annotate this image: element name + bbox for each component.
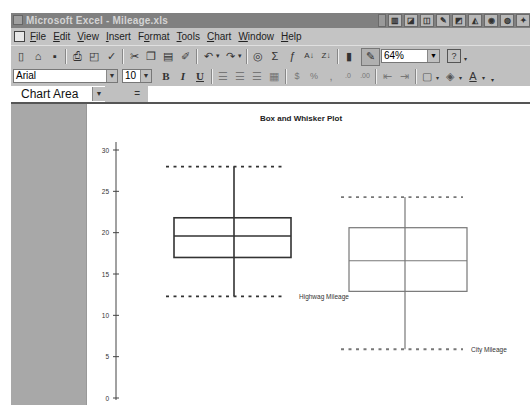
chart-wizard-icon[interactable]: ◪ xyxy=(404,14,418,27)
align-right-icon[interactable]: ☰ xyxy=(250,69,264,83)
formatting-toolbar: Arial ▼ 10 ▼ B I U ☰ ☰ ☰ ▦ $ % , .0 .00 … xyxy=(11,67,530,86)
sort-descending-icon[interactable]: Z↓ xyxy=(319,49,333,63)
menu-window[interactable]: Window xyxy=(238,28,274,45)
font-color-dropdown-icon[interactable]: ▾ xyxy=(480,71,487,85)
redo-dropdown-icon[interactable]: ▾ xyxy=(236,49,244,63)
spelling-icon[interactable]: ✓ xyxy=(104,49,118,63)
toolbar-separator xyxy=(375,69,377,84)
underline-button[interactable]: U xyxy=(193,69,207,83)
menu-help[interactable]: Help xyxy=(281,28,302,45)
cut-icon[interactable]: ✂ xyxy=(127,49,141,63)
y-tick-label: 30 xyxy=(102,147,110,154)
chart-area[interactable]: Box and Whisker Plot 051015202530 Highwa… xyxy=(87,104,530,405)
name-box-dropdown-icon[interactable]: ▼ xyxy=(92,87,105,101)
preview-icon[interactable]: ◭ xyxy=(468,14,482,27)
percent-icon[interactable]: % xyxy=(307,69,321,83)
web-icon[interactable]: ◉ xyxy=(484,14,498,27)
iqr-box[interactable] xyxy=(174,218,291,258)
increase-decimal-icon[interactable]: .0 xyxy=(341,69,355,83)
y-tick-label: 25 xyxy=(102,188,110,195)
fill-color-icon[interactable]: ◈ xyxy=(443,69,457,83)
align-left-icon[interactable]: ☰ xyxy=(216,69,230,83)
align-center-icon[interactable]: ☰ xyxy=(233,69,247,83)
font-size-combobox[interactable]: 10 ▼ xyxy=(122,69,152,83)
menu-format[interactable]: Format xyxy=(138,28,170,45)
series-city-mileage[interactable]: City Mileage xyxy=(341,197,507,354)
drawing-icon[interactable]: ✎ xyxy=(436,14,450,27)
name-box[interactable]: Chart Area ▼ xyxy=(11,86,105,102)
menu-insert[interactable]: Insert xyxy=(106,28,131,45)
zoom-dropdown-icon[interactable]: ▼ xyxy=(427,50,439,62)
hyperlink-icon[interactable]: ◎ xyxy=(251,49,265,63)
comma-style-icon[interactable]: , xyxy=(324,69,338,83)
toolbar-separator xyxy=(246,49,248,64)
font-name-value: Arial xyxy=(16,70,36,81)
print-icon[interactable]: ⎙ xyxy=(70,49,84,63)
toolbar-separator xyxy=(122,49,124,64)
y-axis[interactable]: 051015202530 xyxy=(102,142,119,402)
sort-ascending-icon[interactable]: A↓ xyxy=(302,49,316,63)
italic-button[interactable]: I xyxy=(176,69,190,83)
borders-icon[interactable]: ▢ xyxy=(420,69,434,83)
menu-view[interactable]: View xyxy=(77,28,99,45)
y-tick-label: 5 xyxy=(105,353,109,360)
autosum-icon[interactable]: Σ xyxy=(268,49,282,63)
undo-dropdown-icon[interactable]: ▾ xyxy=(214,49,222,63)
save-icon[interactable]: ▪ xyxy=(48,49,62,63)
copy-icon[interactable]: ❐ xyxy=(144,49,158,63)
decrease-decimal-icon[interactable]: .00 xyxy=(358,69,372,83)
format-icon[interactable]: ◩ xyxy=(452,14,466,27)
toolbar-options-icon[interactable]: ▾ xyxy=(462,52,468,66)
menu-chart[interactable]: Chart xyxy=(207,28,231,45)
decrease-indent-icon[interactable]: ⇤ xyxy=(380,69,394,83)
menu-tools[interactable]: Tools xyxy=(177,28,200,45)
excel-app-icon[interactable] xyxy=(13,15,23,25)
tools-icon[interactable]: ✦ xyxy=(516,14,530,27)
series-highway-mileage[interactable]: Highwag Mileage xyxy=(166,167,349,301)
office-assistant-icon[interactable]: ◍ xyxy=(500,14,514,27)
iqr-box[interactable] xyxy=(349,228,467,292)
toolbar-separator xyxy=(196,49,198,64)
drawing-toggle-icon[interactable]: ✎ xyxy=(361,48,380,66)
y-tick-label: 15 xyxy=(102,271,110,278)
chart-title[interactable]: Box and Whisker Plot xyxy=(260,114,343,123)
menu-edit[interactable]: Edit xyxy=(53,28,70,45)
menu-file[interactable]: File xyxy=(30,28,46,45)
excel-window: Microsoft Excel - Mileage.xls ▥ ◪ ◫ ✎ ◩ … xyxy=(11,13,530,405)
undo-icon[interactable]: ↶ xyxy=(201,49,215,63)
document-icon[interactable] xyxy=(14,31,25,42)
font-color-icon[interactable]: A xyxy=(466,69,480,83)
function-icon[interactable]: ƒ xyxy=(285,49,299,63)
help-icon[interactable]: ? xyxy=(447,49,461,63)
merge-center-icon[interactable]: ▦ xyxy=(267,69,281,83)
formula-input[interactable] xyxy=(148,86,530,102)
font-dropdown-icon[interactable]: ▼ xyxy=(106,70,117,82)
fill-color-dropdown-icon[interactable]: ▾ xyxy=(457,71,464,85)
menu-bar: File Edit View Insert Format Tools Chart… xyxy=(11,28,530,45)
print-preview-icon[interactable]: ◰ xyxy=(87,49,101,63)
redo-icon[interactable]: ↷ xyxy=(223,49,237,63)
format-painter-icon[interactable]: ✐ xyxy=(178,49,192,63)
title-grip-icon xyxy=(378,14,386,27)
equals-button[interactable]: = xyxy=(134,86,140,102)
size-dropdown-icon[interactable]: ▼ xyxy=(140,70,151,82)
y-tick-label: 20 xyxy=(102,229,110,236)
font-name-combobox[interactable]: Arial ▼ xyxy=(13,69,118,83)
increase-indent-icon[interactable]: ⇥ xyxy=(397,69,411,83)
borders-dropdown-icon[interactable]: ▾ xyxy=(434,71,441,85)
plot-series: Highwag MileageCity Mileage xyxy=(166,167,507,354)
y-tick-label: 0 xyxy=(105,395,109,402)
chart-wizard-toolbar-icon[interactable]: ▮ xyxy=(342,49,356,63)
toolbar-separator xyxy=(65,49,67,64)
currency-icon[interactable]: $ xyxy=(290,69,304,83)
open-folder-icon[interactable]: ⌂ xyxy=(31,49,45,63)
chart-type-icon[interactable]: ▥ xyxy=(388,14,402,27)
toolbar-options-icon[interactable]: ▾ xyxy=(489,73,495,87)
new-file-icon[interactable]: ▯ xyxy=(14,49,28,63)
zoom-combobox[interactable]: 64% ▼ xyxy=(381,49,440,63)
bold-button[interactable]: B xyxy=(159,69,173,83)
chart-map-icon[interactable]: ◫ xyxy=(420,14,434,27)
paste-icon[interactable]: ▤ xyxy=(161,49,175,63)
box-whisker-chart: Box and Whisker Plot 051015202530 Highwa… xyxy=(87,104,530,405)
formula-buttons: = xyxy=(105,86,148,102)
